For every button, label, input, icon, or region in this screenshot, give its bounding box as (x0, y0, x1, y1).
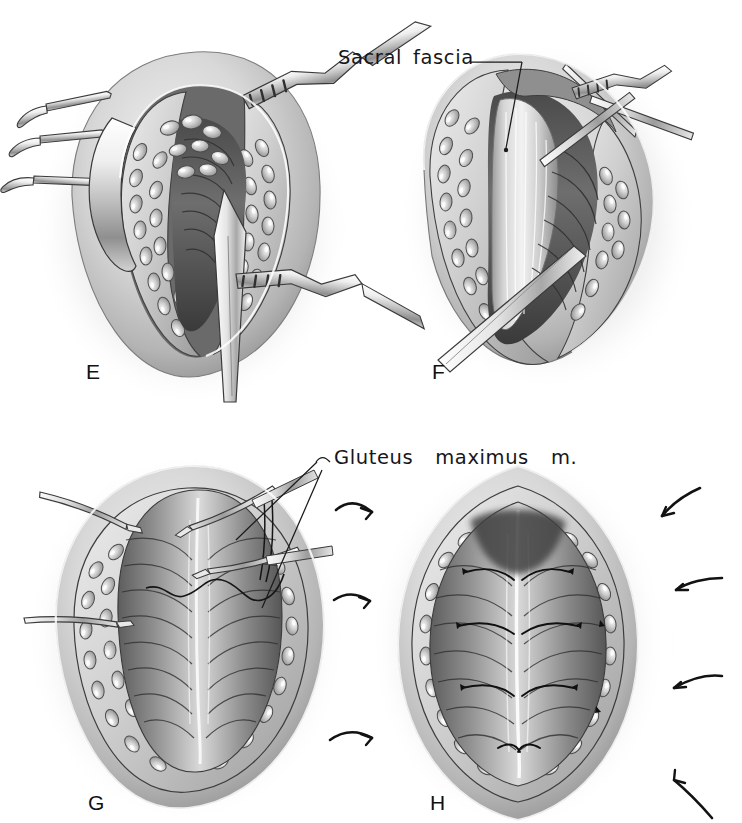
suture-thread-g (146, 574, 284, 601)
fat-right-f (558, 120, 641, 358)
annotation-sacral-fascia-word-1: Sacral (338, 46, 402, 69)
annotation-gluteus-word-2: maximus (435, 446, 529, 469)
illustration-canvas (0, 0, 742, 823)
fat-ring-h (412, 486, 624, 802)
closure-arrow-right-upper (662, 488, 700, 516)
annotation-sacral-fascia: Sacralfascia (338, 48, 474, 68)
rake-retractor-e-1 (14, 91, 114, 128)
hemostat-g-3 (171, 485, 280, 539)
fat-lobules-f-right (568, 165, 631, 322)
sacral-fascia-sheet (492, 99, 558, 330)
panel-letter-h: H (430, 792, 446, 813)
muscle-striations-g (122, 538, 280, 738)
scalpel-e (214, 190, 246, 402)
closure-arrow-left-lower (330, 732, 372, 745)
leader-line-group (236, 62, 522, 608)
illustration-plate: Sacralfascia Gluteusmaximusm. E F G H (0, 0, 742, 823)
annotation-gluteus-word-3: m. (551, 446, 577, 469)
hemostat-g-2 (23, 606, 134, 638)
rake-retractor-f-2 (589, 96, 695, 140)
leader-gluteus-2 (262, 470, 322, 608)
rake-retractor-e-2 (8, 130, 106, 157)
fascia-fibre-highlights-f (506, 108, 546, 320)
fat-lobules-g (79, 541, 299, 774)
fat-lobules-e-right (221, 137, 277, 335)
skin-field-h (398, 466, 638, 820)
closure-arrow-left-upper (336, 503, 372, 519)
fat-lobules-f-left (436, 107, 507, 323)
muscle-striations-h (434, 566, 602, 750)
panel-h-figure (378, 462, 658, 822)
hemostat-g-1 (38, 481, 144, 545)
annotation-sacral-fascia-word-2: fascia (413, 46, 474, 69)
panel-letter-g: G (88, 792, 105, 813)
rake-retractor-e-3 (1, 169, 100, 203)
midline-raphe-g (197, 498, 201, 764)
richardson-retractor-e-lower (232, 258, 430, 329)
panel-letter-e: E (86, 361, 101, 382)
hemostat-g-4 (190, 547, 301, 579)
fat-ring-g (74, 488, 308, 792)
suture-knots-h (456, 568, 605, 713)
skin-field-g (56, 466, 324, 809)
scalpel-f (438, 246, 586, 372)
fat-left-e (121, 92, 200, 356)
leader-gluteus-hook (316, 458, 330, 463)
closure-arrow-right-low (674, 676, 722, 688)
fat-left-f (430, 70, 548, 365)
panel-letter-f: F (432, 361, 445, 382)
skin-field-e (72, 52, 320, 377)
closure-arrow-group (330, 488, 722, 818)
deep-wound-e (172, 118, 246, 332)
annotation-gluteus-word-1: Gluteus (334, 446, 413, 469)
fascia-striations-e (181, 139, 234, 272)
rake-retractor-f-1 (554, 64, 648, 137)
fat-lobules-e-left (127, 141, 203, 338)
fascia-cut-edge-f (532, 148, 598, 310)
closure-arrow-left-mid (334, 594, 370, 608)
leader-sacral-fascia-dot (504, 148, 508, 152)
gluteus-maximus-g (118, 490, 282, 772)
panel-g-figure (23, 460, 338, 816)
interrupted-sutures-h (458, 569, 578, 752)
panel-e-figure (1, 19, 440, 402)
skin-field-f (423, 54, 653, 364)
closure-arrow-right-mid (676, 578, 722, 590)
closure-arrow-right-bottom (674, 770, 712, 818)
wound-fat-mass-e (158, 114, 230, 180)
gluteus-maximus-h (430, 502, 606, 786)
deep-wound-f (488, 91, 598, 345)
clamp-shafts-g (252, 470, 333, 565)
annotation-gluteus-maximus: Gluteusmaximusm. (334, 448, 577, 468)
retractor-shank-f (537, 92, 639, 167)
midline-closure-h (517, 510, 520, 778)
panel-f-figure (408, 48, 695, 384)
leader-sacral-fascia-tail (506, 62, 522, 148)
fat-lobules-h (419, 530, 618, 778)
richardson-retractor-f (571, 65, 674, 99)
curved-retractor-e (89, 118, 136, 271)
fat-right-e (214, 96, 290, 354)
leader-gluteus-1 (236, 462, 317, 540)
